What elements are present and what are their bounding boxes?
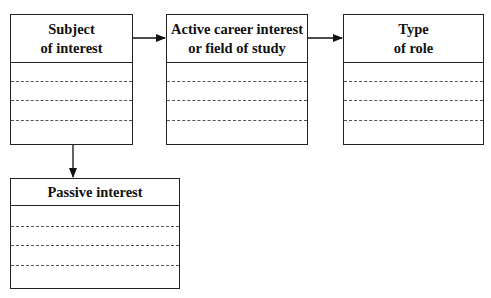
blank-row-divider	[344, 81, 483, 82]
box-header: Type of role	[344, 15, 483, 63]
blank-row-divider	[11, 81, 132, 82]
box-passive-interest: Passive interest	[10, 178, 180, 289]
box-title-line: of role	[394, 39, 434, 58]
box-title-line: Subject	[40, 20, 102, 39]
box-type-of-role: Type of role	[343, 14, 484, 145]
blank-row-divider	[11, 120, 132, 121]
blank-row-divider	[167, 100, 307, 101]
box-title-line: Active career interest	[171, 20, 303, 39]
blank-row-divider	[344, 120, 483, 121]
box-title-line: or field of study	[171, 39, 303, 58]
blank-row-divider	[344, 100, 483, 101]
box-active-career-interest: Active career interest or field of study	[166, 14, 308, 145]
blank-row-divider	[11, 245, 179, 246]
box-header: Passive interest	[11, 179, 179, 206]
blank-row-divider	[11, 265, 179, 266]
box-header: Subject of interest	[11, 15, 132, 63]
box-subject-of-interest: Subject of interest	[10, 14, 133, 145]
blank-row-divider	[167, 81, 307, 82]
blank-row-divider	[167, 120, 307, 121]
blank-row-divider	[11, 226, 179, 227]
box-title-line: Type	[394, 20, 434, 39]
box-header: Active career interest or field of study	[167, 15, 307, 63]
blank-row-divider	[11, 100, 132, 101]
box-title-line: Passive interest	[47, 183, 142, 202]
box-title-line: of interest	[40, 39, 102, 58]
